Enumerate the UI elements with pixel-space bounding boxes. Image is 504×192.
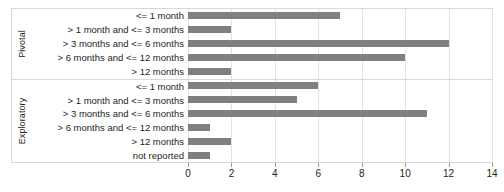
bar — [188, 54, 405, 61]
bars-pivotal — [188, 9, 492, 79]
bar-row — [188, 148, 492, 162]
x-tick-label: 0 — [185, 168, 191, 179]
x-tick-label: 10 — [400, 168, 411, 179]
bar — [188, 110, 427, 117]
bar — [188, 82, 318, 89]
category-label: > 6 months and <= 12 months — [32, 51, 188, 65]
bar-row — [188, 23, 492, 37]
group-exploratory: Exploratory <= 1 month > 1 month and <= … — [12, 79, 188, 162]
category-label: > 3 months and <= 6 months — [32, 37, 188, 51]
bars-exploratory — [188, 79, 492, 162]
category-label: <= 1 month — [32, 80, 188, 94]
bar-row — [188, 134, 492, 148]
bar-row — [188, 120, 492, 134]
bar — [188, 68, 231, 75]
group-pivotal: Pivotal <= 1 month > 1 month and <= 3 mo… — [12, 9, 188, 79]
x-tick-label: 6 — [316, 168, 322, 179]
category-labels-exploratory: <= 1 month > 1 month and <= 3 months > 3… — [32, 80, 188, 162]
bar-row — [188, 37, 492, 51]
bar — [188, 96, 297, 103]
x-tick — [492, 163, 493, 167]
x-tick — [275, 163, 276, 167]
category-label: > 12 months — [32, 65, 188, 79]
plot-panel — [188, 9, 492, 162]
category-label: <= 1 month — [32, 9, 188, 23]
bar-row — [188, 9, 492, 23]
bar — [188, 152, 210, 159]
category-label: not reported — [32, 148, 188, 162]
x-tick — [318, 163, 319, 167]
bar-row — [188, 106, 492, 120]
category-axis: Pivotal <= 1 month > 1 month and <= 3 mo… — [12, 9, 188, 162]
category-labels-pivotal: <= 1 month > 1 month and <= 3 months > 3… — [32, 9, 188, 79]
category-label: > 3 months and <= 6 months — [32, 107, 188, 121]
bar-row — [188, 92, 492, 106]
group-label-exploratory: Exploratory — [12, 80, 32, 162]
group-label-exploratory-text: Exploratory — [17, 97, 27, 144]
x-axis: 02468101214 — [188, 163, 492, 187]
category-label: > 12 months — [32, 135, 188, 149]
category-label: > 1 month and <= 3 months — [32, 23, 188, 37]
horizontal-bar-chart: Pivotal <= 1 month > 1 month and <= 3 mo… — [0, 0, 504, 192]
group-label-pivotal: Pivotal — [12, 9, 32, 79]
category-label: > 6 months and <= 12 months — [32, 121, 188, 135]
x-tick — [231, 163, 232, 167]
category-label: > 1 month and <= 3 months — [32, 93, 188, 107]
bar-row — [188, 51, 492, 65]
gridline — [492, 9, 493, 162]
bar — [188, 138, 231, 145]
bar-row — [188, 65, 492, 79]
x-tick-label: 14 — [486, 168, 497, 179]
group-label-pivotal-text: Pivotal — [17, 30, 27, 58]
x-tick-label: 2 — [229, 168, 235, 179]
bar-row — [188, 79, 492, 93]
bar — [188, 124, 210, 131]
x-tick — [188, 163, 189, 167]
x-tick — [405, 163, 406, 167]
bar — [188, 12, 340, 19]
x-tick — [449, 163, 450, 167]
x-tick — [362, 163, 363, 167]
x-tick-label: 12 — [443, 168, 454, 179]
x-tick-label: 4 — [272, 168, 278, 179]
bar — [188, 40, 449, 47]
x-tick-label: 8 — [359, 168, 365, 179]
bar — [188, 26, 231, 33]
